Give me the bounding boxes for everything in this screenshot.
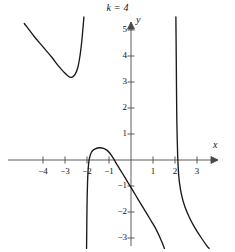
curve-branch-left [24, 17, 84, 77]
x-tick-label: 3 [186, 166, 208, 176]
x-tick-label: −4 [32, 166, 54, 176]
y-axis-arrow [128, 22, 135, 29]
y-tick-label: 2 [105, 102, 127, 112]
x-tick-label: −3 [54, 166, 76, 176]
x-axis-label: x [213, 139, 217, 150]
x-tick-label: −2 [76, 166, 98, 176]
y-tick-label: 3 [105, 76, 127, 86]
y-tick-label: 1 [105, 128, 127, 138]
x-tick-label: 1 [142, 166, 164, 176]
y-axis-label: y [136, 14, 140, 25]
y-tick-label: 4 [105, 50, 127, 60]
x-tick-label: 2 [164, 166, 186, 176]
x-tick-label: −1 [98, 166, 120, 176]
y-tick-label: −1 [105, 180, 127, 190]
y-tick-label: −2 [105, 206, 127, 216]
x-axis-arrow [211, 157, 218, 164]
graph-figure: k = 4 x y −4−3−2−1123 54321−1−2−3 [0, 0, 235, 252]
chart-title: k = 4 [0, 2, 235, 13]
curve-branch-right [176, 17, 209, 248]
y-tick-label: 5 [105, 24, 127, 34]
y-tick-label: −3 [105, 232, 127, 242]
